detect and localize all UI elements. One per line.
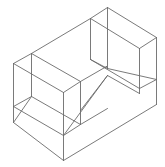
wireframe-edge: [14, 97, 32, 107]
wireframe-edge: [32, 97, 81, 125]
wireframe-edge: [64, 105, 157, 161]
wireframe-edge: [81, 67, 107, 82]
wireframe-edge: [64, 76, 108, 136]
wireframe-edge: [91, 8, 108, 19]
wireframe-edge: [64, 82, 81, 93]
wireframe-edge: [140, 38, 157, 49]
wireframe-edge: [14, 123, 64, 161]
wireframe-edge: [64, 125, 81, 136]
wireframe-edge: [32, 54, 81, 82]
wireframe-edge: [14, 97, 32, 123]
wireframe-edge: [14, 54, 32, 64]
wireframe-edge: [140, 80, 157, 89]
wireframe-edge: [81, 109, 108, 125]
wireframe-diagram: [0, 0, 165, 167]
wireframe-edge: [32, 19, 91, 54]
isometric-u-block-drawing: [0, 0, 165, 167]
wireframe-edge: [108, 76, 140, 94]
